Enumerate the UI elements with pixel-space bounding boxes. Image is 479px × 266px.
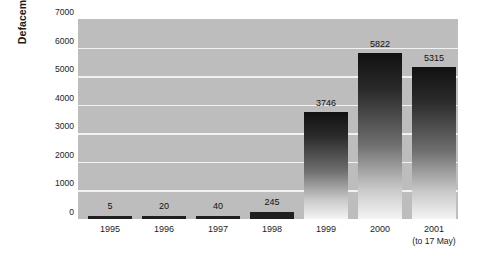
x-tick-label: 1995 — [100, 224, 120, 234]
x-tick-1995: 1995 — [100, 224, 120, 234]
y-axis-tick-labels: 7000 6000 5000 4000 3000 2000 1000 0 — [40, 12, 74, 220]
bar-value-label-2000: 5822 — [370, 39, 390, 49]
x-tick-label: 1996 — [154, 224, 174, 234]
y-tick-label: 1000 — [40, 178, 74, 188]
x-tick-1999: 1999 — [316, 224, 336, 234]
x-tick-2001: 2001 (to 17 May) — [412, 224, 455, 246]
y-tick-label: 5000 — [40, 64, 74, 74]
bar-value-label-1996: 20 — [159, 201, 169, 211]
bar-value-label-2001: 5315 — [424, 53, 444, 63]
x-tick-2000: 2000 — [370, 224, 390, 234]
bar-1997 — [196, 216, 240, 219]
x-tick-label: 1998 — [262, 224, 282, 234]
plot-area: 5 20 40 245 3746 5822 5315 — [78, 19, 458, 219]
x-tick-1996: 1996 — [154, 224, 174, 234]
bar-value-label-1997: 40 — [213, 201, 223, 211]
x-tick-label: 2000 — [370, 224, 390, 234]
bar-1999 — [304, 112, 348, 219]
y-tick-label: 6000 — [40, 36, 74, 46]
y-tick-label: 2000 — [40, 150, 74, 160]
x-axis-tick-labels: 1995 1996 1997 1998 1999 2000 2001 (to 1… — [78, 224, 458, 264]
bar-2001 — [412, 67, 456, 219]
bar-value-label-1999: 3746 — [316, 98, 336, 108]
gridline — [78, 48, 458, 49]
x-tick-1998: 1998 — [262, 224, 282, 234]
defacements-bar-chart: Defacements 7000 6000 5000 4000 3000 200… — [0, 0, 479, 266]
y-tick-label: 0 — [40, 207, 74, 217]
x-tick-label: 1997 — [208, 224, 228, 234]
x-tick-label: 2001 — [412, 224, 455, 234]
bar-value-label-1998: 245 — [264, 197, 279, 207]
x-tick-1997: 1997 — [208, 224, 228, 234]
bar-1995 — [88, 216, 132, 219]
y-tick-label: 7000 — [40, 7, 74, 17]
bar-1996 — [142, 216, 186, 219]
x-tick-sublabel: (to 17 May) — [412, 236, 455, 246]
y-tick-label: 4000 — [40, 93, 74, 103]
y-tick-label: 3000 — [40, 121, 74, 131]
bar-2000 — [358, 53, 402, 219]
bar-1998 — [250, 212, 294, 219]
bar-value-label-1995: 5 — [107, 201, 112, 211]
x-tick-label: 1999 — [316, 224, 336, 234]
y-axis-title: Defacements — [16, 0, 32, 76]
